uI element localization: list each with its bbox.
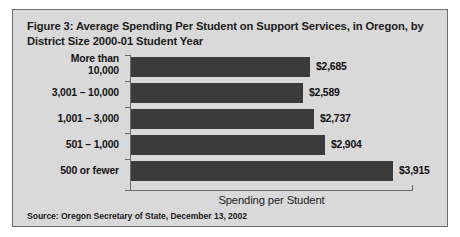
bar-track: $2,685 [131,57,448,77]
bar-row: 1,001 – 3,000 $2,737 [13,107,448,131]
category-label: 500 or fewer [12,165,119,177]
bar-row: More than 10,000 $2,685 [13,55,448,79]
category-label-line1: More than [71,53,119,64]
bar [131,57,310,77]
source-note: Source: Oregon Secretary of State, Decem… [27,211,247,221]
plot-area: More than 10,000 $2,685 3,001 – 10,000 $… [13,55,448,190]
figure-panel: Figure 3: Average Spending Per Student o… [12,9,448,227]
x-axis-line [130,190,413,191]
category-label: 3,001 – 10,000 [12,87,119,99]
bar-row: 500 or fewer $3,915 [13,159,448,183]
bar-value-label: $2,904 [331,139,362,150]
bar [131,135,325,155]
category-label: 1,001 – 3,000 [12,113,119,125]
x-axis-title: Spending per Student [130,194,413,206]
x-axis-end-tick [412,185,413,191]
bar-track: $3,915 [131,161,448,181]
bar [131,109,314,129]
bar [131,83,303,103]
bar-row: 3,001 – 10,000 $2,589 [13,81,448,105]
bar-value-label: $3,915 [399,165,430,176]
category-label: More than 10,000 [12,53,119,77]
category-label: 501 – 1,000 [12,139,119,151]
bar [131,161,393,181]
category-label-line2: 10,000 [88,65,119,76]
bar-track: $2,589 [131,83,448,103]
bar-row: 501 – 1,000 $2,904 [13,133,448,157]
bar-value-label: $2,685 [316,61,347,72]
bar-value-label: $2,589 [309,87,340,98]
bar-track: $2,904 [131,135,448,155]
bar-track: $2,737 [131,109,448,129]
figure-title: Figure 3: Average Spending Per Student o… [27,19,433,48]
bar-value-label: $2,737 [320,113,351,124]
